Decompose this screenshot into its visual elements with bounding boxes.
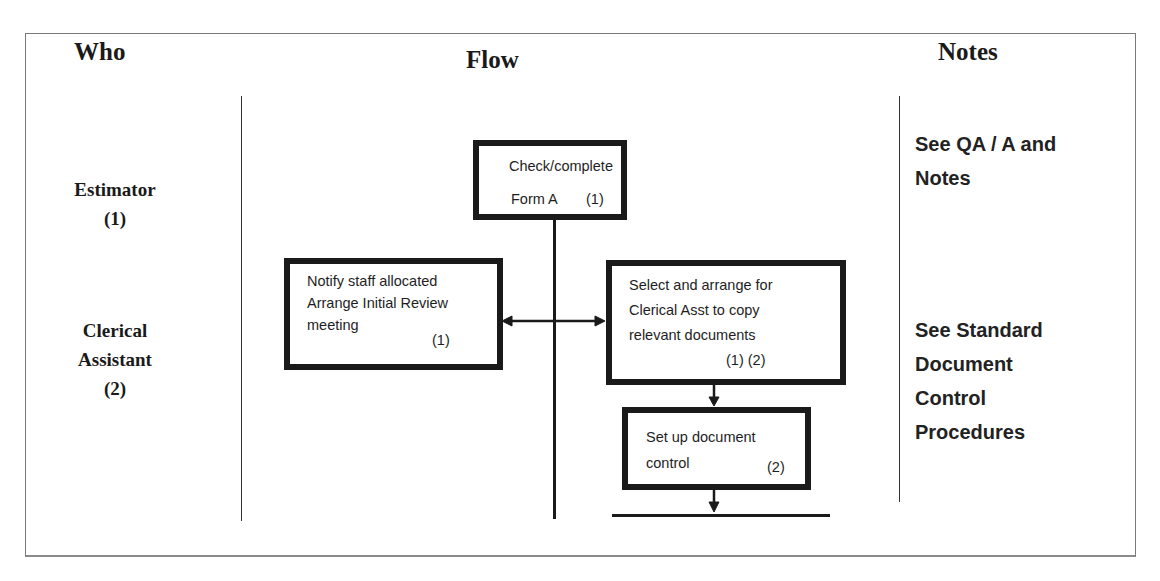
step-document-control: Set up document control (2)	[622, 407, 811, 490]
double-arrow-icon	[502, 316, 605, 326]
step-check-form-a: Check/complete Form A (1)	[473, 140, 627, 220]
step-notify-staff: Notify staff allocated Arrange Initial R…	[284, 258, 503, 370]
arrows-layer	[0, 0, 1160, 581]
step-text: Notify staff allocated	[307, 273, 437, 289]
step-select-documents: Select and arrange for Clerical Asst to …	[606, 260, 846, 385]
step-ref: (2)	[767, 459, 785, 475]
step-text: Select and arrange for	[629, 277, 772, 293]
step-text: relevant documents	[629, 327, 756, 343]
step-ref: (1)	[586, 191, 604, 207]
step-ref: (1)	[432, 332, 450, 348]
step-text: Set up document	[646, 429, 756, 445]
step-text: Arrange Initial Review	[307, 295, 448, 311]
step-text: Check/complete	[509, 158, 613, 174]
step-text: Form A	[511, 191, 558, 207]
step-text: Clerical Asst to copy	[629, 302, 760, 318]
step-text: meeting	[307, 317, 359, 333]
step-text: control	[646, 455, 690, 471]
down-arrow-icon	[709, 384, 719, 406]
down-arrow-icon	[709, 489, 719, 512]
step-ref: (1) (2)	[726, 352, 765, 368]
